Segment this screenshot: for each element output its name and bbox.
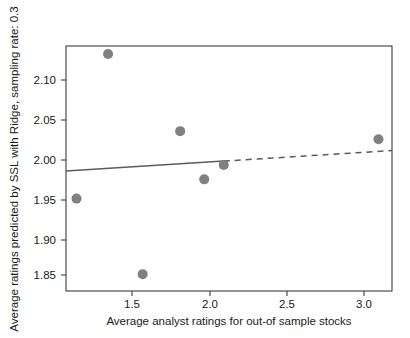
data-point	[373, 134, 383, 144]
y-tick-label: 1.90	[34, 234, 56, 246]
data-point	[199, 174, 209, 184]
y-tick-labels: 1.85 1.90 1.95 2.00 2.05 2.10	[34, 74, 56, 281]
x-tick-labels: 1.5 2.0 2.5 3.0	[124, 298, 372, 310]
y-tick-label: 1.85	[34, 269, 56, 281]
trend-line-solid-segment	[66, 161, 224, 171]
x-axis-title: Average analyst ratings for out-of sampl…	[106, 315, 351, 327]
y-axis-title: Average ratings predicted by SSL with Ri…	[8, 6, 20, 331]
y-tick-label: 2.00	[34, 154, 56, 166]
data-points-group	[72, 49, 384, 279]
data-point	[175, 126, 185, 136]
scatter-plot-figure: 1.85 1.90 1.95 2.00 2.05 2.10 1.5 2.0 2.…	[0, 0, 410, 338]
y-tick-marks	[61, 80, 66, 275]
x-tick-marks	[132, 291, 364, 296]
plot-canvas: 1.85 1.90 1.95 2.00 2.05 2.10 1.5 2.0 2.…	[0, 0, 410, 338]
y-tick-label: 2.05	[34, 114, 56, 126]
data-point	[138, 269, 148, 279]
x-tick-label: 1.5	[124, 298, 140, 310]
y-tick-label: 2.10	[34, 74, 56, 86]
x-tick-label: 2.5	[279, 298, 295, 310]
data-point	[72, 194, 82, 204]
trend-line	[66, 151, 392, 171]
x-tick-label: 2.0	[202, 298, 218, 310]
trend-line-dashed-segment	[224, 151, 392, 162]
data-point	[103, 49, 113, 59]
data-point	[219, 160, 229, 170]
y-tick-label: 1.95	[34, 194, 56, 206]
x-tick-label: 3.0	[356, 298, 372, 310]
